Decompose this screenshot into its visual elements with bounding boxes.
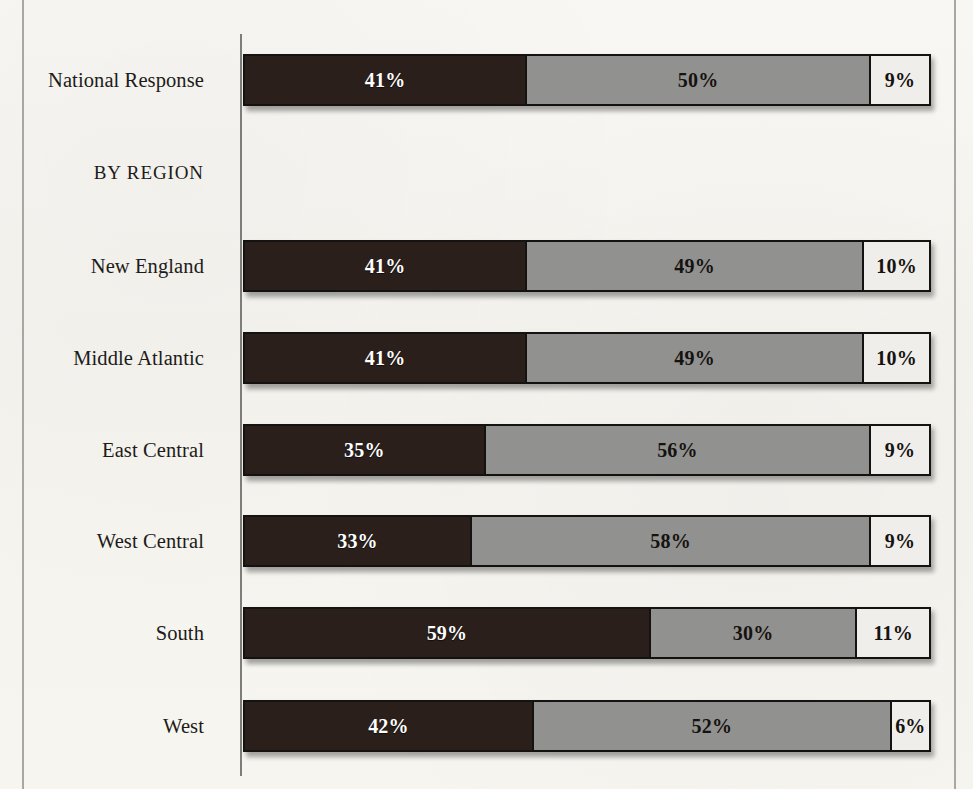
category-label: National Response xyxy=(0,69,222,92)
bar-segment-value: 50% xyxy=(678,69,719,92)
bar-segment-value: 10% xyxy=(876,347,917,370)
chart-row: East Central35%56%9% xyxy=(0,421,973,479)
category-label: Middle Atlantic xyxy=(0,347,222,370)
chart-row: West Central33%58%9% xyxy=(0,512,973,570)
bar-segment-value: 58% xyxy=(650,530,691,553)
bar-segment-value: 11% xyxy=(873,622,913,645)
bar-segment-value: 56% xyxy=(657,439,698,462)
bar-segment-value: 49% xyxy=(674,347,715,370)
bar-segment-value: 41% xyxy=(365,69,406,92)
bar-segment: 30% xyxy=(649,607,855,659)
bar-segment-value: 59% xyxy=(427,622,468,645)
bar-track: 41%49%10% xyxy=(243,332,931,384)
category-label: South xyxy=(0,622,222,645)
bar-segment-value: 33% xyxy=(337,530,378,553)
bar-segment: 58% xyxy=(470,515,869,567)
bar-track: 35%56%9% xyxy=(243,424,931,476)
bar-segment: 41% xyxy=(243,54,525,106)
bar-segment: 59% xyxy=(243,607,649,659)
bar-segment-value: 9% xyxy=(885,530,915,553)
bar-segment-value: 49% xyxy=(674,255,715,278)
chart-row: BY REGION xyxy=(0,144,973,202)
chart-row: New England41%49%10% xyxy=(0,237,973,295)
bar-segment: 9% xyxy=(869,54,931,106)
bar-segment: 42% xyxy=(243,700,532,752)
bar-track: 42%52%6% xyxy=(243,700,931,752)
bar-segment: 52% xyxy=(532,700,890,752)
category-label: New England xyxy=(0,255,222,278)
bar-segment-value: 52% xyxy=(692,715,733,738)
section-heading: BY REGION xyxy=(0,162,222,184)
bar-segment-value: 9% xyxy=(885,439,915,462)
chart-page: National Response41%50%9%BY REGIONNew En… xyxy=(0,0,973,789)
bar-segment: 56% xyxy=(484,424,869,476)
bar-segment: 6% xyxy=(890,700,931,752)
category-label: West Central xyxy=(0,530,222,553)
bar-segment: 9% xyxy=(869,515,931,567)
bar-segment-value: 35% xyxy=(344,439,385,462)
bar-segment: 35% xyxy=(243,424,484,476)
chart-row: Middle Atlantic41%49%10% xyxy=(0,329,973,387)
bar-track: 59%30%11% xyxy=(243,607,931,659)
bar-segment: 11% xyxy=(855,607,931,659)
bar-track: 41%50%9% xyxy=(243,54,931,106)
stacked-bar-chart: National Response41%50%9%BY REGIONNew En… xyxy=(0,0,973,789)
bar-segment: 10% xyxy=(862,332,931,384)
bar-segment: 41% xyxy=(243,240,525,292)
chart-row: South59%30%11% xyxy=(0,604,973,662)
bar-segment-value: 6% xyxy=(895,715,925,738)
category-label: East Central xyxy=(0,439,222,462)
bar-segment: 49% xyxy=(525,332,862,384)
bar-segment-value: 10% xyxy=(876,255,917,278)
category-label: West xyxy=(0,715,222,738)
bar-segment-value: 30% xyxy=(733,622,774,645)
bar-segment: 41% xyxy=(243,332,525,384)
bar-segment-value: 41% xyxy=(365,255,406,278)
bar-segment-value: 9% xyxy=(885,69,915,92)
bar-segment-value: 41% xyxy=(365,347,406,370)
bar-segment: 10% xyxy=(862,240,931,292)
bar-track: 41%49%10% xyxy=(243,240,931,292)
bar-segment: 33% xyxy=(243,515,470,567)
bar-track: 33%58%9% xyxy=(243,515,931,567)
bar-segment: 49% xyxy=(525,240,862,292)
bar-segment: 50% xyxy=(525,54,869,106)
chart-row: West42%52%6% xyxy=(0,697,973,755)
chart-row: National Response41%50%9% xyxy=(0,51,973,109)
bar-segment: 9% xyxy=(869,424,931,476)
bar-segment-value: 42% xyxy=(368,715,409,738)
